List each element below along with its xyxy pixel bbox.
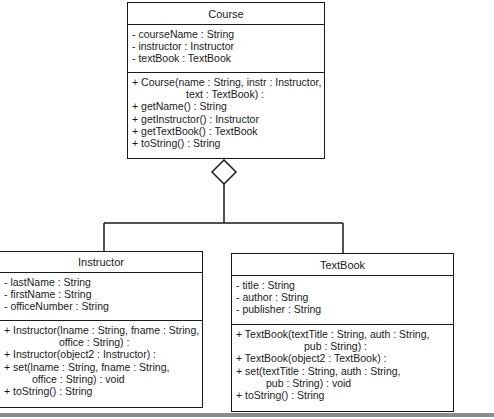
class-attributes: - courseName : String - instructor : Ins… bbox=[128, 25, 324, 73]
method-continuation: office : String) : void bbox=[4, 373, 202, 385]
attribute: - textBook : TextBook bbox=[132, 52, 324, 64]
class-name: Course bbox=[128, 3, 324, 25]
method: + Course(name : String, instr : Instruct… bbox=[132, 76, 324, 88]
method: + getInstructor() : Instructor bbox=[132, 113, 324, 125]
attribute: - officeNumber : String bbox=[4, 300, 202, 312]
method: + set(textTitle : String, auth : String, bbox=[236, 365, 453, 377]
class-name: Instructor bbox=[0, 252, 202, 273]
method: + Instructor(object2 : Instructor) : bbox=[4, 348, 202, 360]
class-name: TextBook bbox=[232, 254, 453, 276]
attribute: - instructor : Instructor bbox=[132, 40, 324, 52]
attribute: - courseName : String bbox=[132, 28, 324, 40]
class-instructor: Instructor - lastName : String - firstNa… bbox=[0, 251, 203, 408]
method-continuation: pub : String) : void bbox=[236, 377, 453, 389]
method: + getName() : String bbox=[132, 100, 324, 112]
method: + toString() : String bbox=[132, 137, 324, 149]
method: + getTextBook() : TextBook bbox=[132, 125, 324, 137]
method-continuation: office : String) : bbox=[4, 336, 202, 348]
attribute: - publisher : String bbox=[236, 303, 453, 315]
method: + TextBook(object2 : TextBook) : bbox=[236, 352, 453, 364]
method: + TextBook(textTitle : String, auth : St… bbox=[236, 328, 453, 340]
method: + Instructor(lname : String, fname : Str… bbox=[4, 324, 202, 336]
class-course: Course - courseName : String - instructo… bbox=[127, 2, 325, 159]
page-bottom-rule bbox=[0, 413, 494, 417]
method: + set(lname : String, fname : String, bbox=[4, 361, 202, 373]
method: + toString() : String bbox=[4, 385, 202, 397]
class-attributes: - title : String - author : String - pub… bbox=[232, 276, 453, 325]
class-methods: + Instructor(lname : String, fname : Str… bbox=[0, 321, 202, 397]
class-attributes: - lastName : String - firstName : String… bbox=[0, 273, 202, 321]
attribute: - firstName : String bbox=[4, 288, 202, 300]
method: + toString() : String bbox=[236, 389, 453, 401]
aggregation-diamond-icon bbox=[212, 160, 236, 184]
class-methods: + TextBook(textTitle : String, auth : St… bbox=[232, 325, 453, 401]
class-methods: + Course(name : String, instr : Instruct… bbox=[128, 73, 324, 149]
method-continuation: pub : String) : bbox=[236, 340, 453, 352]
attribute: - author : String bbox=[236, 291, 453, 303]
method-continuation: text : TextBook) : bbox=[132, 88, 324, 100]
attribute: - title : String bbox=[236, 279, 453, 291]
class-textbook: TextBook - title : String - author : Str… bbox=[231, 253, 454, 412]
attribute: - lastName : String bbox=[4, 276, 202, 288]
